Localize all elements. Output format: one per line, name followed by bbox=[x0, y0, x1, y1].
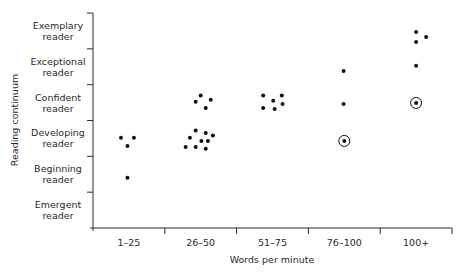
data-point bbox=[342, 69, 346, 73]
data-point bbox=[194, 145, 198, 149]
data-point bbox=[204, 106, 208, 110]
reading-continuum-scatter-chart: Reading continuum EmergentreaderBeginnin… bbox=[0, 0, 462, 278]
data-point bbox=[184, 145, 188, 149]
y-axis-title-group: Reading continuum bbox=[9, 74, 20, 166]
y-axis-category-labels: EmergentreaderBeginningreaderDevelopingr… bbox=[30, 20, 85, 221]
data-point bbox=[414, 40, 418, 44]
data-point bbox=[199, 139, 203, 143]
highlighted-data-point bbox=[414, 101, 418, 105]
data-point bbox=[199, 93, 203, 97]
data-point bbox=[119, 136, 123, 140]
data-points bbox=[119, 30, 428, 180]
data-point bbox=[194, 100, 198, 104]
data-point bbox=[280, 93, 284, 97]
x-axis-category-labels: 1–2526–5051–7576–100100+ bbox=[117, 237, 429, 248]
y-category-label: Emergentreader bbox=[35, 199, 82, 221]
data-point bbox=[261, 106, 265, 110]
y-category-label: Exceptionalreader bbox=[30, 56, 85, 78]
x-axis-title: Words per minute bbox=[230, 254, 315, 265]
x-category-label: 76–100 bbox=[327, 237, 362, 248]
data-point bbox=[188, 136, 192, 140]
y-axis-title: Reading continuum bbox=[9, 74, 20, 166]
x-category-label: 100+ bbox=[403, 237, 429, 248]
data-point bbox=[414, 30, 418, 34]
axes bbox=[87, 13, 452, 234]
data-point bbox=[342, 102, 346, 106]
data-point bbox=[204, 131, 208, 135]
x-category-label: 26–50 bbox=[186, 237, 215, 248]
data-point bbox=[125, 144, 129, 148]
data-point bbox=[209, 98, 213, 102]
data-point bbox=[125, 176, 129, 180]
data-point bbox=[281, 102, 285, 106]
x-category-label: 1–25 bbox=[117, 237, 140, 248]
data-point bbox=[204, 147, 208, 151]
y-category-label: Beginningreader bbox=[34, 163, 82, 185]
highlighted-data-point bbox=[342, 139, 346, 143]
y-category-label: Exemplaryreader bbox=[33, 20, 84, 42]
data-point bbox=[414, 64, 418, 68]
data-point bbox=[194, 129, 198, 133]
data-point bbox=[132, 136, 136, 140]
data-point bbox=[261, 93, 265, 97]
data-point bbox=[424, 35, 428, 39]
y-category-label: Confidentreader bbox=[35, 92, 81, 114]
data-point bbox=[271, 99, 275, 103]
data-point bbox=[273, 107, 277, 111]
y-category-label: Developingreader bbox=[31, 127, 85, 149]
data-point bbox=[206, 139, 210, 143]
x-category-label: 51–75 bbox=[258, 237, 287, 248]
data-point bbox=[211, 134, 215, 138]
